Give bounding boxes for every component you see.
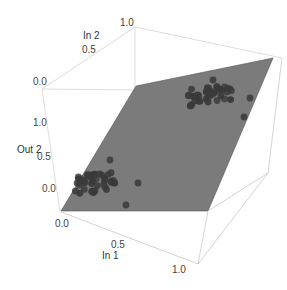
data-point <box>241 114 248 121</box>
data-point <box>108 169 115 176</box>
data-point <box>221 96 228 103</box>
data-point <box>210 77 217 84</box>
in1-tick-1: 1.0 <box>172 264 186 275</box>
data-point <box>108 179 115 186</box>
data-point <box>102 184 109 191</box>
data-point <box>101 177 108 184</box>
in2-tick-0: 0.0 <box>33 76 47 87</box>
data-point <box>81 179 88 186</box>
data-point <box>135 180 142 187</box>
data-point <box>85 171 92 178</box>
data-point <box>227 96 234 103</box>
data-point <box>94 182 101 189</box>
out2-tick-0: 0.0 <box>42 183 56 194</box>
in1-axis-label: In 1 <box>102 250 119 261</box>
data-point <box>205 99 212 106</box>
data-point <box>247 95 254 102</box>
data-point <box>214 97 221 104</box>
data-point <box>188 86 195 93</box>
data-point <box>194 92 201 99</box>
out2-tick-1: 1.0 <box>33 117 47 128</box>
out2-axis-label: Out 2 <box>17 144 42 155</box>
data-point <box>81 186 88 193</box>
data-point <box>205 85 212 92</box>
3d-scatter-plot[interactable]: 1.0 0.5 0.0 In 2 1.0 0.5 0.0 Out 2 0.0 0… <box>0 0 287 290</box>
data-point <box>204 91 211 98</box>
in2-tick-05: 0.5 <box>82 44 96 55</box>
data-point <box>123 202 130 209</box>
data-point <box>107 157 114 164</box>
in2-tick-1: 1.0 <box>120 17 134 28</box>
in1-tick-0: 0.0 <box>55 218 69 229</box>
in1-tick-05: 0.5 <box>111 239 125 250</box>
data-point <box>185 92 192 99</box>
in2-axis-label: In 2 <box>83 30 100 41</box>
data-point <box>221 84 228 91</box>
data-point <box>191 98 198 105</box>
data-point <box>88 188 95 195</box>
